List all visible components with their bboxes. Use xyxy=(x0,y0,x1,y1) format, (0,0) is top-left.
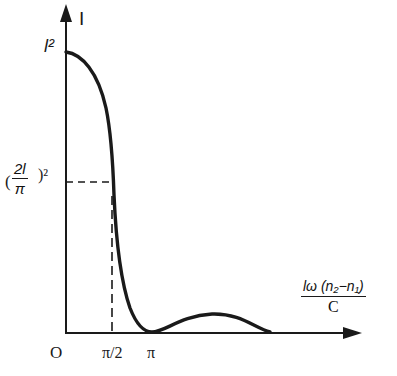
intensity-plot xyxy=(0,0,397,376)
y-tick-l-squared: l² xyxy=(44,36,54,57)
intensity-curve xyxy=(66,52,270,332)
y-tick-fraction: 2l π xyxy=(12,160,28,197)
y-tick-fraction-numerator: 2l xyxy=(12,160,28,179)
y-axis-label: I xyxy=(79,8,84,30)
x-tick-pi: π xyxy=(147,344,155,362)
y-tick-close-paren: )² xyxy=(38,166,48,184)
x-axis-label-numerator: lω (n₂−n₁) xyxy=(301,277,366,297)
origin-label: O xyxy=(50,343,62,363)
y-axis-arrow-icon xyxy=(60,4,72,22)
x-tick-pi-half: π/2 xyxy=(102,344,123,362)
y-tick-fraction-denominator: π xyxy=(12,179,28,197)
x-axis-arrow-icon xyxy=(343,327,362,339)
y-tick-open-paren: ( xyxy=(5,172,11,192)
x-axis-label: lω (n₂−n₁) C xyxy=(301,277,366,316)
x-axis-label-denominator: C xyxy=(301,297,366,316)
